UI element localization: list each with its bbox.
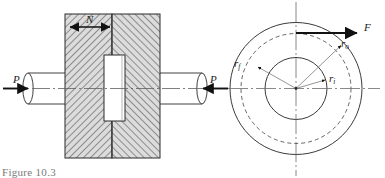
engineering-diagram: N P P F ro: [0, 0, 385, 178]
center-point: [295, 87, 298, 90]
friction-radius-leader: [258, 67, 296, 89]
figure-container: N P P F ro: [0, 0, 385, 178]
right-end-view: F ro rf ri: [228, 2, 380, 176]
label-r-i: ri: [329, 72, 335, 86]
label-r-f: rf: [234, 57, 241, 71]
label-F: F: [363, 21, 371, 33]
label-r-o: ro: [341, 37, 349, 51]
label-N: N: [85, 13, 94, 25]
label-P-left: P: [12, 73, 20, 85]
label-P-right: P: [209, 73, 217, 85]
figure-caption: Figure 10.3: [2, 166, 56, 178]
left-sectional-view: N P P: [3, 13, 228, 158]
